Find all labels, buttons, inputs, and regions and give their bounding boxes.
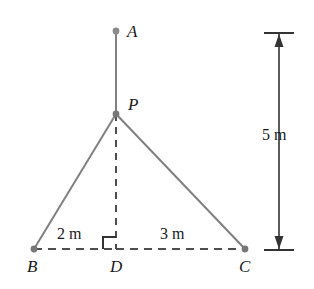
right-angle-marker bbox=[103, 237, 116, 249]
vertex-dot-a bbox=[113, 28, 120, 35]
vertex-dot-c bbox=[242, 246, 249, 253]
measurement-label-dc: 3 m bbox=[160, 226, 184, 242]
measurement-label-height: 5 m bbox=[262, 127, 286, 143]
vertex-dot-b bbox=[31, 246, 38, 253]
dimension-arrowhead-up bbox=[275, 34, 284, 47]
vertex-label-a: A bbox=[127, 23, 137, 40]
vertex-dot-p bbox=[113, 111, 120, 118]
diagram-canvas bbox=[0, 0, 314, 289]
geometry-diagram: A P B D C 2 m 3 m 5 m bbox=[0, 0, 314, 289]
measurement-label-bd: 2 m bbox=[57, 226, 81, 242]
vertex-label-c: C bbox=[239, 258, 250, 275]
vertex-label-d: D bbox=[110, 258, 122, 275]
vertex-label-p: P bbox=[128, 96, 138, 113]
dimension-arrowhead-down bbox=[275, 236, 284, 249]
vertex-label-b: B bbox=[27, 258, 37, 275]
